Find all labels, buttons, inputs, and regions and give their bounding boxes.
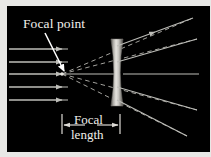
focal-point-leader-arrow — [45, 33, 64, 71]
optics-diagram-panel: Focal point Focal length — [7, 6, 210, 152]
outgoing-ray-2-arrowhead — [117, 50, 159, 62]
outgoing-ray-4-arrowhead — [117, 87, 159, 99]
focal-length-label-line1: Focal — [74, 112, 103, 127]
focal-length-dimension: Focal length — [62, 112, 120, 142]
diverging-lens-ray-diagram: Focal point Focal length — [7, 6, 210, 152]
outgoing-ray-2 — [117, 39, 197, 62]
outgoing-ray-5-arrowhead — [117, 100, 155, 119]
diverging-lens — [111, 39, 123, 106]
focal-point-marker — [60, 72, 64, 76]
outgoing-rays-group — [117, 18, 199, 136]
focal-length-label-line2: length — [71, 127, 104, 142]
figure-root: Focal point Focal length — [0, 0, 211, 157]
outgoing-ray-5 — [117, 100, 187, 136]
focal-point-label: Focal point — [23, 16, 85, 31]
